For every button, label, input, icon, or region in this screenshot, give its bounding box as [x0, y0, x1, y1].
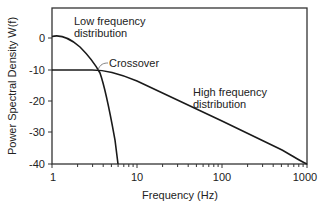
x-tick-10: 10: [131, 171, 143, 183]
y-tick-minus20: -20: [29, 95, 45, 107]
x-tick-100: 100: [213, 171, 231, 183]
annotation-low-line2: distribution: [74, 27, 127, 39]
crossover-leader-line: [98, 63, 108, 70]
y-tick-minus40: -40: [29, 158, 45, 170]
x-axis-title: Frequency (Hz): [142, 189, 218, 201]
y-tick-minus10: -10: [29, 64, 45, 76]
y-tick-0: 0: [39, 32, 45, 44]
x-tick-1: 1: [50, 171, 56, 183]
series-low-frequency: [52, 36, 118, 164]
psd-chart: 0 -10 -20 -30 -40: [0, 0, 328, 213]
annotation-low-frequency: Low frequency distribution: [74, 15, 146, 39]
annotation-crossover: Crossover: [109, 57, 159, 69]
y-axis-title: Power Spectral Density W(f): [6, 17, 18, 155]
series-high-frequency: [52, 70, 307, 164]
y-tick-minus30: -30: [29, 126, 45, 138]
annotation-high-line2: distribution: [193, 98, 246, 110]
annotation-high-frequency: High frequency distribution: [193, 86, 267, 110]
x-axis-tick-labels: 1 10 100 1000: [50, 171, 317, 183]
annotation-low-line1: Low frequency: [74, 15, 146, 27]
annotation-high-line1: High frequency: [193, 86, 267, 98]
y-axis-tick-labels: 0 -10 -20 -30 -40: [29, 32, 45, 170]
x-tick-1000: 1000: [293, 171, 317, 183]
